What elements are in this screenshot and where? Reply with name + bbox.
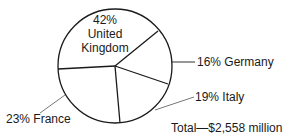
label-uk-name-line1: United <box>80 27 130 41</box>
label-uk-name-line2: Kingdom <box>80 41 130 55</box>
total-annotation: Total—$2,558 million <box>171 122 282 135</box>
label-uk-percent: 42% <box>80 13 130 27</box>
label-france: 23% France <box>6 113 71 126</box>
leader-line-france <box>40 95 65 113</box>
label-germany: 16% Germany <box>197 56 274 69</box>
label-italy: 19% Italy <box>195 91 244 104</box>
label-uk: 42% United Kingdom <box>80 13 130 55</box>
